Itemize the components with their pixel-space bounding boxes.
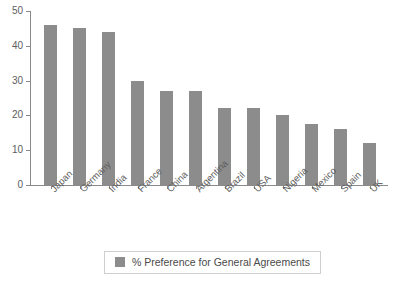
legend: % Preference for General Agreements [104,251,321,274]
x-axis-labels: JapanGermanyIndiaFranceChinaArgentinaBra… [30,187,388,239]
legend-label: % Preference for General Agreements [132,257,310,268]
y-axis-tick-label: 30 [12,76,23,86]
legend-swatch-icon [115,257,125,267]
y-axis-tick-label: 0 [17,180,23,190]
x-axis-ticks [30,11,388,185]
y-axis-tick-label: 10 [12,145,23,155]
y-axis-tick-label: 50 [12,6,23,16]
y-axis-tick-label: 20 [12,110,23,120]
y-axis-tick [26,185,30,186]
y-axis-tick-label: 40 [12,41,23,51]
plot-area: 01020304050 [30,11,388,185]
chart-page: 01020304050 JapanGermanyIndiaFranceChina… [0,0,402,282]
